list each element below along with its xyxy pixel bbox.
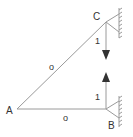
load-b-arrow-up-icon [102,72,110,109]
node-label-b: B [108,120,115,131]
member-label-ab: o [63,113,68,123]
load-label-c: 1 [95,36,100,46]
node-label-c: C [93,11,100,22]
node-label-a: A [6,105,13,116]
member-ac [17,22,106,109]
load-c-arrow-down-icon [102,22,110,60]
support-c-icon [106,8,122,38]
truss-diagram: A B C o o 1 1 [0,0,133,137]
load-label-b: 1 [95,92,100,102]
member-label-ac: o [49,62,54,72]
